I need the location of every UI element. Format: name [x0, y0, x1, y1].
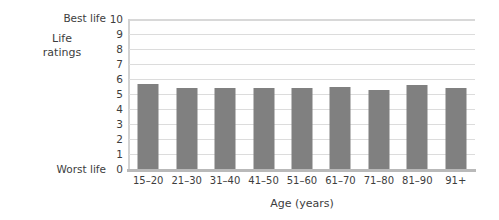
- bar: [407, 85, 428, 169]
- bar: [138, 84, 159, 169]
- x-tick-label: 51–60: [283, 175, 321, 186]
- plot-area: [129, 19, 475, 169]
- y-tick-label: 2: [103, 134, 123, 144]
- bar-slot: [283, 19, 321, 169]
- x-tick-label: 41–50: [244, 175, 282, 186]
- bar: [291, 88, 312, 169]
- bar: [253, 88, 274, 169]
- x-tick-label: 61–70: [321, 175, 359, 186]
- y-tick-label: 8: [103, 44, 123, 54]
- bar-slot: [206, 19, 244, 169]
- bar-slot: [244, 19, 282, 169]
- bar-slot: [398, 19, 436, 169]
- y-tick-label: 9: [103, 29, 123, 39]
- y-tick-label: 3: [103, 119, 123, 129]
- bar-slot: [129, 19, 167, 169]
- y-tick-label: 6: [103, 74, 123, 84]
- x-tick-label: 81–90: [398, 175, 436, 186]
- y-tick-label: 10: [103, 14, 123, 24]
- x-tick-label: 71–80: [360, 175, 398, 186]
- x-axis-line: [127, 169, 476, 172]
- x-tick-label: 91+: [437, 175, 475, 186]
- worst-life-label: Worst life: [20, 163, 106, 175]
- y-tick-label: 1: [103, 149, 123, 159]
- y-tick-label: 0: [103, 164, 123, 174]
- bar: [176, 88, 197, 169]
- bar: [445, 88, 466, 169]
- y-axis-title: Life ratings: [18, 32, 106, 60]
- y-axis-title-line-2: ratings: [18, 46, 106, 60]
- bar-chart-figure: Life ratings Best life Worst life 109876…: [0, 0, 499, 220]
- bar: [368, 90, 389, 170]
- y-tick-label: 5: [103, 89, 123, 99]
- bar-slot: [321, 19, 359, 169]
- bar-slot: [360, 19, 398, 169]
- y-tick-label: 4: [103, 104, 123, 114]
- bar-series: [129, 19, 475, 169]
- y-tick-label: 7: [103, 59, 123, 69]
- bar: [215, 88, 236, 169]
- x-tick-label: 31–40: [206, 175, 244, 186]
- x-tick-label: 15–20: [129, 175, 167, 186]
- y-axis-title-line-1: Life: [18, 32, 106, 46]
- bar-slot: [437, 19, 475, 169]
- x-axis-title: Age (years): [129, 197, 475, 210]
- x-tick-label: 21–30: [167, 175, 205, 186]
- bar-slot: [167, 19, 205, 169]
- best-life-label: Best life: [20, 12, 106, 24]
- bar: [330, 87, 351, 169]
